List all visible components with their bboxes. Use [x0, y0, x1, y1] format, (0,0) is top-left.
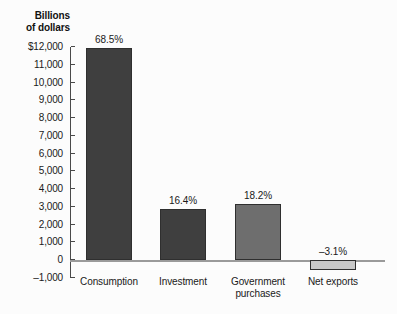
y-tick-label: 11,000 [0, 59, 63, 71]
y-tick-label: 0 [0, 254, 63, 266]
y-tick-label: 4,000 [0, 183, 63, 195]
y-tick-label: $12,000 [0, 41, 63, 53]
y-tick-mark [71, 206, 75, 207]
bar-value-label: –3.1% [300, 246, 366, 258]
bar-chart: Billions of dollars $12,00011,00010,0009… [0, 0, 397, 314]
y-axis-title-line-1: Billions [8, 10, 70, 22]
y-tick-label: 10,000 [0, 77, 63, 89]
y-tick-mark [71, 99, 75, 100]
y-tick-mark [71, 117, 75, 118]
bar-government-purchases[interactable] [235, 204, 281, 260]
y-tick-label: 3,000 [0, 201, 63, 213]
y-tick-label: 7,000 [0, 130, 63, 142]
y-tick-label: 6,000 [0, 148, 63, 160]
bar-consumption[interactable] [86, 48, 132, 260]
y-tick-label: 9,000 [0, 94, 63, 106]
y-tick-mark [71, 46, 75, 47]
bar-net-exports[interactable] [310, 260, 356, 270]
y-tick-mark [71, 153, 75, 154]
y-tick-mark [71, 170, 75, 171]
y-tick-mark [71, 82, 75, 83]
y-tick-mark [71, 188, 75, 189]
y-tick-label: 5,000 [0, 165, 63, 177]
y-tick-mark [71, 241, 75, 242]
y-tick-mark [71, 224, 75, 225]
y-tick-mark [71, 135, 75, 136]
y-axis-title: Billions of dollars [8, 10, 70, 33]
y-tick-label: 2,000 [0, 219, 63, 231]
y-tick-label: 1,000 [0, 236, 63, 248]
x-category-label-line: purchases [211, 288, 305, 300]
y-axis-title-line-2: of dollars [8, 22, 70, 34]
x-category-label: Net exports [286, 276, 380, 288]
x-category-label-line: Net exports [286, 276, 380, 288]
bar-value-label: 18.2% [225, 190, 291, 202]
y-tick-label: –1,000 [0, 272, 63, 284]
bar-value-label: 16.4% [150, 195, 216, 207]
bar-value-label: 68.5% [76, 34, 142, 46]
y-tick-mark [71, 64, 75, 65]
y-tick-label: 8,000 [0, 112, 63, 124]
bar-investment[interactable] [160, 209, 206, 260]
